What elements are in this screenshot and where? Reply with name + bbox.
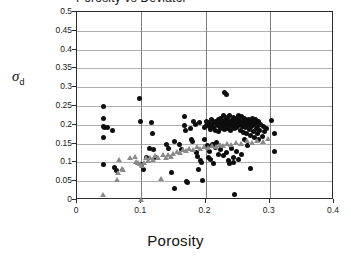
x-tick-label-text: 0.3 xyxy=(254,205,284,215)
x-axis-label: Porosity xyxy=(0,232,351,249)
data-point-triangle xyxy=(100,192,106,197)
data-point-circle xyxy=(239,152,244,157)
data-point-triangle xyxy=(254,138,260,143)
data-point-triangle xyxy=(114,177,120,182)
data-point-circle xyxy=(264,126,269,131)
data-point-circle xyxy=(269,118,274,123)
y-tick-label-text: 0.2 xyxy=(44,120,72,128)
data-point-circle xyxy=(229,146,234,151)
data-point-circle xyxy=(232,192,237,197)
x-tick-label-text: 0.1 xyxy=(125,205,155,215)
gridline-vertical xyxy=(270,12,271,198)
data-point-circle xyxy=(101,162,106,167)
data-point-triangle xyxy=(265,136,271,141)
gridline-horizontal xyxy=(77,162,332,163)
data-point-circle xyxy=(110,128,115,133)
data-point-circle xyxy=(202,137,207,142)
data-point-circle xyxy=(172,186,177,191)
data-point-circle xyxy=(272,131,277,136)
x-tick-mark xyxy=(205,199,206,203)
chart-title-text: Porosity vs Deviator xyxy=(76,0,187,5)
data-point-circle xyxy=(185,180,190,185)
data-point-triangle xyxy=(116,157,122,162)
y-tick-label: 0.1 xyxy=(40,157,72,165)
y-tick-label-text: 0.45 xyxy=(44,26,72,34)
data-point-circle xyxy=(231,160,236,165)
y-tick-label: 0.3 xyxy=(40,82,72,90)
x-tick-label-text: 0.2 xyxy=(190,205,220,215)
scatter-plot-figure: Porosity vs Deviator σd 00.050.10.150.20… xyxy=(0,0,351,264)
y-tick-label-text: 0.35 xyxy=(44,63,72,71)
data-point-circle xyxy=(141,167,146,172)
data-point-circle xyxy=(196,167,201,172)
gridline-vertical xyxy=(206,12,207,198)
y-tick-label: 0.5 xyxy=(40,7,72,15)
data-point-circle xyxy=(208,157,213,162)
data-point-circle xyxy=(169,170,174,175)
gridline-horizontal xyxy=(77,31,332,32)
gridline-horizontal xyxy=(77,87,332,88)
x-tick-mark xyxy=(269,199,270,203)
x-tick-mark xyxy=(333,199,334,203)
data-point-circle xyxy=(101,135,106,140)
data-point-triangle xyxy=(120,167,126,172)
data-point-triangle xyxy=(158,176,164,181)
x-tick-mark xyxy=(76,199,77,203)
y-tick-label-text: 0.3 xyxy=(44,82,72,90)
y-tick-label-text: 0.4 xyxy=(44,45,72,53)
data-point-circle xyxy=(224,150,229,155)
y-tick-label-text: 0.05 xyxy=(44,176,72,184)
y-tick-label: 0.25 xyxy=(40,101,72,109)
data-point-circle xyxy=(199,160,204,165)
y-tick-label: 0.05 xyxy=(40,176,72,184)
y-tick-label-text: 0 xyxy=(44,195,72,203)
data-point-circle xyxy=(101,104,106,109)
x-tick-label-text: 0 xyxy=(61,205,91,215)
y-tick-label: 0.45 xyxy=(40,26,72,34)
gridline-horizontal xyxy=(77,106,332,107)
y-tick-label-text: 0.15 xyxy=(44,139,72,147)
data-point-circle xyxy=(218,147,223,152)
gridline-horizontal xyxy=(77,50,332,51)
y-axis-subscript: d xyxy=(19,77,24,87)
plot-area xyxy=(76,11,333,199)
data-point-triangle xyxy=(138,197,144,202)
y-axis-label: σd xyxy=(12,68,24,87)
data-point-circle xyxy=(188,126,193,131)
data-point-circle xyxy=(149,120,154,125)
data-point-circle xyxy=(224,92,229,97)
y-tick-label: 0.2 xyxy=(40,120,72,128)
y-tick-label: 0.35 xyxy=(40,63,72,71)
gridline-horizontal xyxy=(77,68,332,69)
data-point-circle xyxy=(150,131,155,136)
y-tick-label-text: 0.1 xyxy=(44,157,72,165)
data-point-circle xyxy=(248,166,253,171)
data-point-circle xyxy=(138,119,143,124)
data-point-circle xyxy=(182,114,187,119)
data-point-circle xyxy=(151,147,156,152)
data-point-circle xyxy=(182,123,187,128)
data-point-circle xyxy=(272,149,277,154)
data-point-circle xyxy=(101,116,106,121)
y-tick-label-text: 0.25 xyxy=(44,101,72,109)
y-tick-label-text: 0.5 xyxy=(44,7,72,15)
y-tick-label: 0.4 xyxy=(40,45,72,53)
y-tick-label: 0.15 xyxy=(40,139,72,147)
y-tick-label: 0 xyxy=(40,195,72,203)
x-tick-label-text: 0.4 xyxy=(318,205,348,215)
data-point-circle xyxy=(105,125,110,130)
